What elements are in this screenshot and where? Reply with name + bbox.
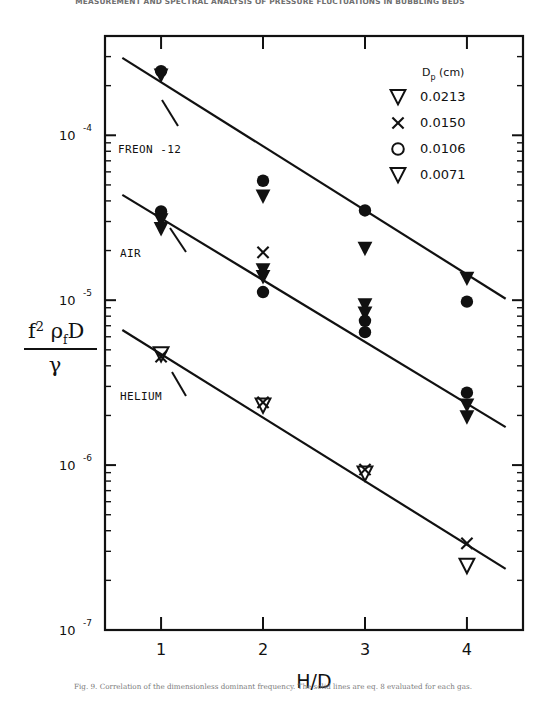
y-axis-title-numerator: f2 ρfD: [28, 319, 84, 347]
legend-title: Dp (cm): [422, 66, 464, 82]
data-point: [256, 190, 271, 204]
annotation-label-helium: HELIUM: [120, 390, 162, 403]
y-tick-label-group: 10-4: [59, 123, 92, 143]
legend-symbol-3: [391, 168, 406, 182]
legend-symbol-1: [392, 117, 403, 128]
legend-label-0: 0.0213: [420, 89, 466, 104]
legend-symbol-2: [392, 143, 404, 155]
y-tick-mantissa: 10: [59, 128, 76, 143]
legend: Dp (cm)0.02130.01500.01060.0071: [420, 66, 466, 182]
data-point: [460, 410, 475, 424]
y-tick-mantissa: 10: [59, 623, 76, 638]
data-point: [257, 175, 269, 187]
data-point: [154, 69, 169, 83]
data-point: [359, 204, 371, 216]
data-point: [154, 222, 169, 236]
y-axis-title-rho: ρ: [44, 319, 63, 343]
y-axis-title-d: D: [68, 319, 85, 343]
figure-caption: Fig. 9. Correlation of the dimensionless…: [58, 682, 488, 691]
y-tick-mantissa: 10: [59, 293, 76, 308]
annotation-leader-helium: [172, 372, 186, 396]
data-point: [358, 242, 373, 256]
fit-line-helium: [122, 330, 505, 569]
legend-label-3: 0.0071: [420, 167, 466, 182]
data-point: [359, 315, 371, 327]
annotation-leader-freon-12: [162, 100, 178, 126]
y-axis-title: f2 ρfDγ: [24, 319, 97, 377]
y-tick-label-group: 10-7: [59, 618, 92, 638]
x-tick-label: 2: [258, 640, 268, 659]
data-point: [460, 559, 475, 573]
x-tick-label: 4: [462, 640, 472, 659]
y-tick-exponent: -7: [83, 618, 92, 628]
legend-label-2: 0.0106: [420, 141, 466, 156]
y-axis-title-denominator: γ: [49, 353, 62, 377]
annotation-label-freon-12: FREON -12: [118, 143, 181, 156]
data-point: [461, 295, 473, 307]
y-tick-exponent: -6: [83, 453, 92, 463]
legend-title-units: (cm): [436, 66, 465, 79]
y-tick-label-group: 10-5: [59, 288, 92, 308]
y-tick-exponent: -5: [83, 288, 92, 298]
x-tick-label: 1: [156, 640, 166, 659]
data-point: [256, 398, 271, 412]
y-tick-exponent: -4: [83, 123, 92, 133]
y-tick-mantissa: 10: [59, 458, 76, 473]
chart-svg: 10-410-510-610-71234H/Df2 ρfDγFREON -12A…: [0, 0, 540, 705]
data-point: [359, 326, 371, 338]
annotation-label-air: AIR: [120, 247, 141, 260]
y-tick-label-group: 10-6: [59, 453, 92, 473]
y-axis-title-exponent: 2: [36, 319, 44, 334]
x-tick-label: 3: [360, 640, 370, 659]
figure-chart: 10-410-510-610-71234H/Df2 ρfDγFREON -12A…: [0, 0, 540, 705]
legend-label-1: 0.0150: [420, 115, 466, 130]
data-point: [257, 286, 269, 298]
legend-symbol-0: [391, 90, 406, 104]
data-point: [461, 386, 473, 398]
data-point: [257, 247, 268, 258]
fit-line-air: [122, 195, 505, 427]
